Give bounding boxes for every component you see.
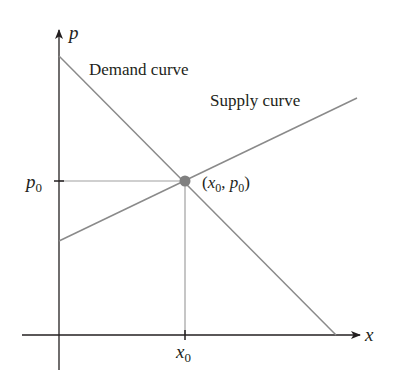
equilibrium-label: (x0, p0) (202, 173, 250, 195)
x0-label: x0 (175, 341, 191, 365)
equilibrium-point (180, 176, 191, 187)
x-axis-label: x (364, 324, 374, 345)
supply-curve (59, 98, 357, 241)
supply-demand-diagram: p x Demand curve Supply curve p0 x0 (x0,… (0, 0, 398, 384)
diagram-canvas: p x Demand curve Supply curve p0 x0 (x0,… (0, 0, 398, 384)
y-axis-label: p (67, 22, 79, 43)
p0-label: p0 (24, 171, 42, 195)
supply-curve-label: Supply curve (210, 91, 300, 110)
demand-curve-label: Demand curve (89, 60, 189, 79)
